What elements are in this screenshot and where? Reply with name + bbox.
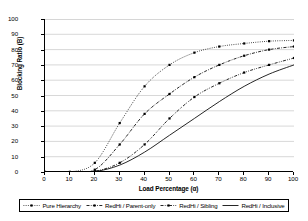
x-tick-mark (119, 172, 120, 175)
series-1 (45, 39, 294, 172)
x-tick-mark (293, 172, 294, 175)
data-point-marker (119, 122, 121, 124)
data-point-marker (243, 42, 245, 44)
y-tick-label: 0 (15, 169, 18, 175)
x-tick-mark (144, 172, 145, 175)
series-line (45, 40, 294, 172)
data-point-marker (144, 85, 146, 87)
data-point-marker (193, 76, 195, 78)
x-tick-mark (44, 172, 45, 175)
x-tick-label: 20 (84, 176, 104, 182)
chart-container: 0102030405060708090100 Blocking Ratio (B… (0, 0, 308, 221)
data-point-marker (144, 143, 146, 145)
legend-line-swatch (23, 202, 40, 209)
legend-line-swatch (86, 202, 103, 209)
x-tick-mark (69, 172, 70, 175)
data-point-marker (268, 49, 270, 51)
legend-label: RedHi / Inclusive (241, 202, 284, 209)
plot-svg (45, 19, 294, 172)
legend-line-swatch (222, 202, 239, 209)
plot-area (44, 19, 293, 172)
data-point-marker (218, 64, 220, 66)
chart-legend: Pure HierarchyRedHi / Parent-onlyRedHi /… (19, 199, 289, 212)
data-point-marker (119, 162, 121, 164)
data-point-marker (94, 162, 96, 164)
data-point-marker (293, 45, 294, 47)
data-point-marker (168, 117, 170, 119)
x-tick-mark (218, 172, 219, 175)
y-tick-label: 30 (11, 123, 18, 129)
data-point-marker (268, 40, 270, 42)
x-tick-label: 40 (134, 176, 154, 182)
data-point-marker (218, 45, 220, 47)
legend-item: RedHi / Parent-only (86, 202, 155, 209)
series-3 (45, 57, 294, 172)
x-tick-mark (94, 172, 95, 175)
data-point-marker (268, 64, 270, 66)
data-point-marker (144, 113, 146, 115)
y-tick-label: 20 (11, 138, 18, 144)
data-point-marker (193, 96, 195, 98)
x-tick-label: 10 (59, 176, 79, 182)
x-tick-mark (169, 172, 170, 175)
data-point-marker (168, 64, 170, 66)
x-tick-label: 50 (159, 176, 179, 182)
x-tick-mark (268, 172, 269, 175)
data-point-marker (168, 93, 170, 95)
data-point-marker (243, 55, 245, 57)
x-tick-label: 70 (208, 176, 228, 182)
legend-label: RedHi / Parent-only (105, 202, 155, 209)
x-tick-label: 100 (283, 176, 303, 182)
y-tick-label: 10 (11, 154, 18, 160)
data-point-marker (293, 39, 294, 41)
x-tick-mark (193, 172, 194, 175)
data-point-marker (193, 52, 195, 54)
data-point-marker (119, 143, 121, 145)
legend-line-swatch (160, 202, 177, 209)
legend-label: RedHi / Sibling (179, 202, 217, 209)
data-point-marker (243, 71, 245, 73)
legend-item: Pure Hierarchy (23, 202, 81, 209)
x-tick-label: 90 (258, 176, 278, 182)
x-tick-label: 80 (233, 176, 253, 182)
legend-item: RedHi / Inclusive (222, 202, 284, 209)
x-tick-label: 60 (183, 176, 203, 182)
legend-item: RedHi / Sibling (160, 202, 217, 209)
y-axis-title: Blocking Ratio (B) (16, 14, 23, 114)
x-axis-title: Load Percentage (α) (44, 185, 293, 192)
x-tick-label: 30 (109, 176, 129, 182)
series-line (45, 58, 294, 172)
data-point-marker (293, 57, 294, 59)
x-tick-mark (243, 172, 244, 175)
data-point-marker (218, 82, 220, 84)
legend-label: Pure Hierarchy (42, 202, 81, 209)
x-tick-label: 0 (34, 176, 54, 182)
